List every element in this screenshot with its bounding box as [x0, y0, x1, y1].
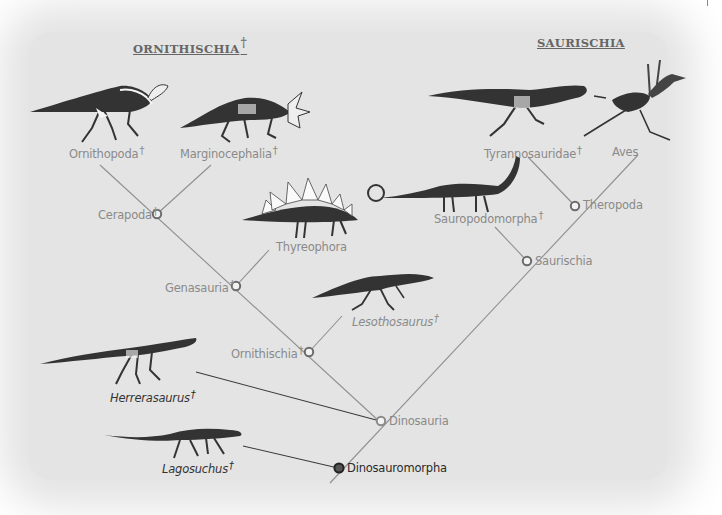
- ornithopoda-skeleton-icon: [30, 85, 168, 142]
- taxon-label: Marginocephalia: [180, 147, 272, 161]
- heading-ornithischia: ORNITHISCHIA†: [133, 36, 247, 56]
- tyrannosauridae-skeleton-icon: [428, 85, 587, 136]
- extinct-dagger-icon: †: [153, 206, 158, 217]
- extinct-dagger-icon: †: [538, 210, 543, 221]
- heading-ornithischia-text: ORNITHISCHIA: [133, 42, 240, 56]
- node-label-genasauria: Genasauria†: [165, 279, 234, 295]
- node-label: Dinosauromorpha: [347, 461, 447, 475]
- cladogram-figure: ORNITHISCHIA† SAURISCHIA Ornithopoda† Ma…: [0, 0, 722, 515]
- lagosuchus-skeleton-icon: [104, 429, 242, 458]
- node-dinosauria: [377, 417, 385, 425]
- taxon-ornithopoda: Ornithopoda†: [69, 145, 144, 161]
- taxon-tyrannosauridae: Tyrannosauridae†: [484, 145, 582, 161]
- aves-skeleton-icon: [584, 60, 686, 140]
- node-label: Saurischia: [535, 254, 592, 268]
- node-label-dinosauria: Dinosauria: [389, 414, 449, 428]
- heading-saurischia-text: SAURISCHIA: [537, 36, 625, 50]
- node-label-cerapoda: Cerapoda†: [98, 206, 158, 222]
- node-theropoda: [571, 202, 579, 210]
- extinct-dagger-icon: †: [299, 345, 304, 356]
- extinct-dagger-icon: †: [139, 145, 144, 156]
- taxon-herrerasaurus: Herrerasaurus†: [110, 389, 196, 405]
- node-label-theropoda: Theropoda: [583, 198, 643, 212]
- taxon-aves: Aves: [612, 145, 638, 159]
- node-label-dinosauromorpha: Dinosauromorpha: [347, 461, 447, 475]
- taxon-label: Tyrannosauridae: [484, 147, 576, 161]
- node-label: Dinosauria: [389, 414, 449, 428]
- extinct-dagger-icon: †: [230, 279, 235, 290]
- taxon-label: Sauropodomorpha: [434, 212, 537, 226]
- taxon-sauropodomorpha: Sauropodomorpha†: [434, 210, 543, 226]
- taxon-lesothosaurus: Lesothosaurus†: [352, 313, 439, 329]
- lesothosaurus-skeleton-icon: [312, 274, 434, 310]
- node-ornithischia: [305, 348, 313, 356]
- node-label: Cerapoda: [98, 208, 152, 222]
- extinct-dagger-icon: †: [577, 145, 582, 156]
- taxon-marginocephalia: Marginocephalia†: [180, 145, 278, 161]
- node-dinosauromorpha: [334, 463, 343, 472]
- thyreophora-skeleton-icon: [242, 178, 358, 238]
- cladogram-tree: [0, 0, 722, 515]
- node-saurischia: [523, 257, 531, 265]
- node-label-saurischia: Saurischia: [535, 254, 592, 268]
- node-label: Theropoda: [583, 198, 643, 212]
- marginocephalia-skeleton-icon: [180, 92, 310, 142]
- heading-saurischia: SAURISCHIA: [537, 36, 625, 50]
- extinct-dagger-icon: †: [191, 389, 196, 400]
- node-label: Ornithischia: [231, 347, 298, 361]
- taxon-lagosuchus: Lagosuchus†: [162, 460, 234, 476]
- extinct-dagger-icon: †: [434, 313, 439, 324]
- herrerasaurus-skeleton-icon: [40, 338, 196, 384]
- extinct-dagger-icon: †: [273, 145, 278, 156]
- sauropodomorpha-skeleton-icon: [368, 156, 520, 212]
- taxon-label: Thyreophora: [276, 240, 347, 254]
- taxon-label: Herrerasaurus: [110, 391, 190, 405]
- taxon-label: Lagosuchus: [162, 462, 228, 476]
- extinct-dagger-icon: †: [241, 36, 248, 50]
- taxon-label: Aves: [612, 145, 638, 159]
- taxon-label: Lesothosaurus: [352, 315, 433, 329]
- extinct-dagger-icon: †: [229, 460, 234, 471]
- node-label: Genasauria: [165, 281, 229, 295]
- taxon-label: Ornithopoda: [69, 147, 138, 161]
- node-label-ornithischia: Ornithischia†: [231, 345, 303, 361]
- taxon-thyreophora: Thyreophora: [276, 240, 347, 254]
